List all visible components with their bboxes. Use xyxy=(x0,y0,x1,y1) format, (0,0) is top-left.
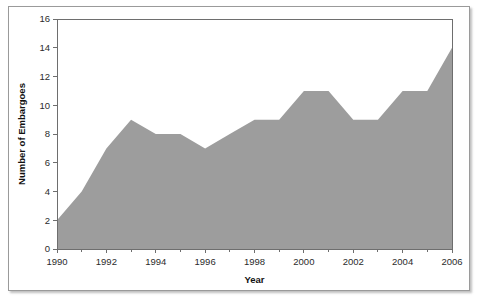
area-chart: 0246810121416199019921994199619982000200… xyxy=(9,7,469,290)
x-tick-label: 2006 xyxy=(441,256,462,267)
y-tick-label: 10 xyxy=(39,100,50,111)
y-tick-label: 6 xyxy=(45,157,50,168)
x-tick-label: 1996 xyxy=(195,256,216,267)
x-tick-label: 2004 xyxy=(392,256,413,267)
x-tick-label: 2000 xyxy=(293,256,314,267)
y-tick-label: 12 xyxy=(39,71,50,82)
chart-figure-frame: 0246810121416199019921994199619982000200… xyxy=(8,6,470,291)
x-tick-label: 1994 xyxy=(145,256,166,267)
y-tick-label: 16 xyxy=(39,13,50,24)
x-tick-label: 1990 xyxy=(46,256,67,267)
x-tick-label: 1992 xyxy=(96,256,117,267)
y-tick-label: 8 xyxy=(45,128,50,139)
x-tick-label: 1998 xyxy=(244,256,265,267)
y-tick-label: 4 xyxy=(45,186,50,197)
x-tick-label: 2002 xyxy=(343,256,364,267)
y-axis-title: Number of Embargoes xyxy=(16,83,27,185)
y-tick-label: 0 xyxy=(45,243,50,254)
x-axis-title: Year xyxy=(244,274,264,285)
y-tick-label: 2 xyxy=(45,215,50,226)
y-tick-label: 14 xyxy=(39,42,50,53)
area-series-fill xyxy=(57,48,452,249)
chart-plot-area: 0246810121416199019921994199619982000200… xyxy=(9,7,469,290)
